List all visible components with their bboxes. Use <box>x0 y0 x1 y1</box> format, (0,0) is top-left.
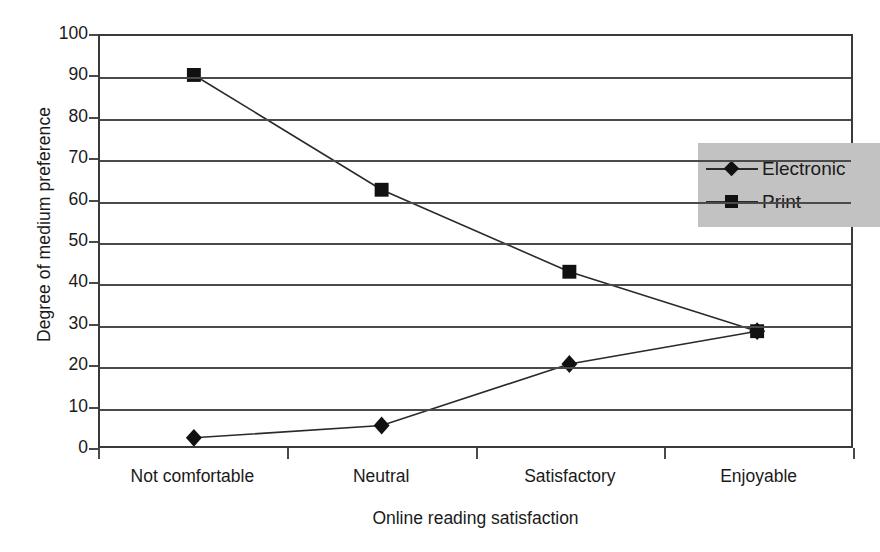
y-axis-tick-label: 40 <box>34 274 88 292</box>
data-point-marker <box>186 429 202 447</box>
x-axis-tick <box>98 448 100 459</box>
data-point-marker <box>562 265 576 279</box>
x-axis-tick <box>853 448 855 459</box>
y-axis-tick-label: 20 <box>34 356 88 374</box>
y-axis-tick-label: 80 <box>34 108 88 126</box>
y-axis-tick <box>89 407 98 409</box>
diamond-marker-icon <box>724 160 740 176</box>
y-axis-tick <box>89 448 98 450</box>
x-axis-tick <box>476 448 478 459</box>
y-axis-tick <box>89 241 98 243</box>
data-point-marker <box>187 68 201 82</box>
x-axis-tick-label: Satisfactory <box>524 466 615 487</box>
x-axis-tick-label: Enjoyable <box>720 466 797 487</box>
y-axis-tick <box>89 34 98 36</box>
y-axis-tick <box>89 200 98 202</box>
y-axis-tick-label: 0 <box>34 439 88 457</box>
x-axis-tick-labels: Not comfortableNeutralSatisfactoryEnjoya… <box>98 466 853 492</box>
gridline <box>100 202 851 204</box>
gridline <box>100 160 851 162</box>
y-axis-tick-label: 30 <box>34 315 88 333</box>
x-axis-title: Online reading satisfaction <box>98 508 853 529</box>
y-axis-tick <box>89 324 98 326</box>
y-axis-tick <box>89 282 98 284</box>
y-axis-tick-label: 50 <box>34 232 88 250</box>
y-axis-tick-label: 10 <box>34 398 88 416</box>
y-axis-tick-label: 100 <box>34 25 88 43</box>
x-axis-tick <box>287 448 289 459</box>
y-axis-tick-label: 70 <box>34 149 88 167</box>
gridline <box>100 409 851 411</box>
gridline <box>100 326 851 328</box>
y-axis-tick <box>89 158 98 160</box>
data-point-marker <box>375 183 389 197</box>
y-axis-tick-label: 90 <box>34 67 88 85</box>
data-point-marker <box>561 355 577 373</box>
data-point-marker <box>374 417 390 435</box>
gridline <box>100 243 851 245</box>
gridline <box>100 77 851 79</box>
x-axis-tick-label: Neutral <box>353 466 409 487</box>
y-axis-tick-labels: 0102030405060708090100 <box>34 34 88 448</box>
legend-item: Electronic <box>706 152 880 185</box>
gridline <box>100 284 851 286</box>
plot-area: ElectronicPrint <box>98 34 853 448</box>
gridline <box>100 367 851 369</box>
y-axis-tick-label: 60 <box>34 191 88 209</box>
gridline <box>100 119 851 121</box>
y-axis-tick <box>89 75 98 77</box>
y-axis-tick <box>89 365 98 367</box>
chart-legend: ElectronicPrint <box>698 143 880 227</box>
series-line <box>194 331 757 438</box>
x-axis-tick <box>664 448 666 459</box>
x-axis-tick-label: Not comfortable <box>131 466 255 487</box>
series-layer <box>100 36 851 446</box>
y-axis-tick <box>89 117 98 119</box>
